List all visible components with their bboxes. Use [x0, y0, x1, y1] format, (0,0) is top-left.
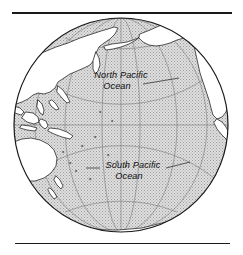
land-canada-arctic [172, 16, 221, 35]
south-pacific-label-line2: Ocean [115, 171, 143, 181]
rule-top [12, 12, 232, 14]
north-pacific-label-line1: North Pacific [94, 70, 148, 80]
south-pacific-label-line1: South Pacific [106, 160, 161, 170]
figure-page: North Pacific Ocean South Pacific Ocean [0, 0, 243, 255]
pacific-globe-map: North Pacific Ocean South Pacific Ocean [0, 16, 243, 238]
rule-bottom [15, 243, 230, 244]
north-pacific-label-line2: Ocean [103, 81, 131, 91]
